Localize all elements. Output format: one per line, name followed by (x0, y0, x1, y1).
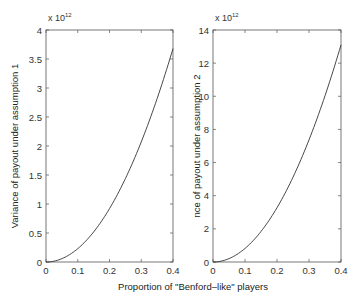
y-tick-label: 2 (204, 223, 209, 234)
y-exponent-label: x 1012 (215, 12, 239, 23)
y-tick-label: 12 (198, 58, 209, 69)
y-tick-label: 2.5 (29, 112, 42, 123)
x-tick-label: 0.1 (71, 265, 84, 276)
y-tick-label: 14 (198, 25, 209, 36)
x-tick-label: 0.4 (334, 265, 347, 276)
y-axis-label: Variance of payout under assumption 1 (9, 64, 20, 229)
y-exponent-label: x 1012 (48, 12, 72, 23)
y-tick-label: 2 (37, 141, 42, 152)
y-tick-label: 8 (204, 124, 209, 135)
x-tick-label: 0.1 (238, 265, 251, 276)
x-tick-label: 0 (43, 265, 48, 276)
y-tick-label: 6 (204, 157, 209, 168)
figure: 00.10.20.30.400.511.522.533.54x 1012Vari… (0, 0, 363, 304)
y-tick-label: 3 (37, 83, 42, 94)
axes-frame (213, 30, 341, 262)
y-tick-label: 4 (204, 190, 209, 201)
shared-x-axis-label: Proportion of "Benford–like" players (118, 281, 268, 292)
y-tick-label: 1.5 (29, 170, 42, 181)
x-tick-label: 0 (210, 265, 215, 276)
x-tick-label: 0.4 (166, 265, 179, 276)
x-tick-label: 0.3 (135, 265, 148, 276)
y-tick-label: 0.5 (29, 228, 42, 239)
data-line (46, 49, 173, 262)
x-tick-label: 0.2 (270, 265, 283, 276)
right-subplot: 00.10.20.30.402468101214x 1012nce of pay… (191, 12, 348, 276)
y-tick-label: 3.5 (29, 54, 42, 65)
y-tick-label: 0 (204, 257, 209, 268)
y-tick-label: 1 (37, 199, 42, 210)
x-tick-label: 0.3 (302, 265, 315, 276)
y-tick-label: 4 (37, 25, 42, 36)
data-line (213, 45, 341, 262)
y-tick-label: 0 (37, 257, 42, 268)
y-axis-label: nce of payout under assumption 2 (191, 74, 202, 217)
x-tick-label: 0.2 (103, 265, 116, 276)
axes-frame (46, 30, 173, 262)
left-subplot: 00.10.20.30.400.511.522.533.54x 1012Vari… (9, 12, 180, 276)
